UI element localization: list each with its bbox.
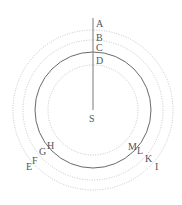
label-g: G	[39, 146, 46, 157]
label-m: M	[128, 141, 137, 152]
orbit-diagram: A B C D S E F G H M L K I	[0, 0, 182, 205]
label-f: F	[32, 155, 38, 166]
label-i: I	[155, 161, 158, 172]
label-k: K	[145, 153, 153, 164]
label-h: H	[47, 140, 54, 151]
label-s: S	[89, 113, 95, 124]
label-c: C	[96, 42, 103, 53]
label-a: A	[96, 18, 104, 29]
label-l: L	[137, 145, 143, 156]
label-d: D	[96, 55, 103, 66]
